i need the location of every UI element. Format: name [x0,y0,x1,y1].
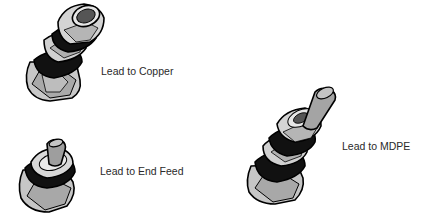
compression-fitting-icon [20,0,110,105]
label-lead-to-copper: Lead to Copper [101,65,173,77]
mdpe-fitting-icon [245,88,340,208]
label-lead-to-mdpe: Lead to MDPE [342,140,410,152]
end-feed-fitting-icon [15,140,90,215]
label-lead-to-end-feed: Lead to End Feed [100,165,183,177]
